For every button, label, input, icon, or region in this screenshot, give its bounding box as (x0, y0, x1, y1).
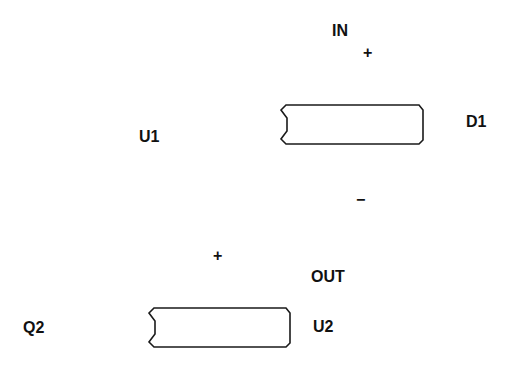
label-in: IN (332, 23, 348, 39)
component-box-2 (149, 308, 290, 347)
component-box-1 (281, 105, 423, 144)
label-u2: U2 (313, 319, 333, 335)
plus-sign-bottom: + (213, 248, 222, 264)
plus-sign-top: + (363, 45, 372, 61)
label-d1: D1 (466, 114, 486, 130)
label-u1: U1 (139, 129, 159, 145)
label-out: OUT (311, 269, 345, 285)
label-q2: Q2 (23, 320, 44, 336)
minus-sign: − (356, 192, 365, 208)
diagram-canvas: IN + U1 D1 − + OUT Q2 U2 (0, 0, 513, 386)
diagram-shapes (0, 0, 513, 386)
